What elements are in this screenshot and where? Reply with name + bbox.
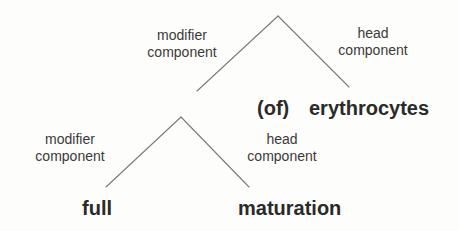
label-line: modifier <box>35 131 104 148</box>
word-full: full <box>82 197 112 219</box>
label-line: modifier <box>147 27 216 44</box>
compound-term-tree-diagram: modifier component head component (of) e… <box>0 0 459 231</box>
word-erythrocytes: erythrocytes <box>309 97 429 119</box>
label-line: head <box>338 25 407 42</box>
sub-modifier-component-label: modifier component <box>35 131 104 165</box>
label-line: component <box>338 42 407 59</box>
top-modifier-component-label: modifier component <box>147 27 216 61</box>
sub-modifier-branch <box>106 117 181 187</box>
sub-head-component-label: head component <box>247 131 316 165</box>
top-head-component-label: head component <box>338 25 407 59</box>
label-line: component <box>147 44 216 61</box>
word-maturation: maturation <box>238 197 341 219</box>
label-line: component <box>35 148 104 165</box>
label-line: component <box>247 148 316 165</box>
sub-head-branch <box>181 117 249 187</box>
preposition-of: (of) <box>257 97 289 119</box>
label-line: head <box>247 131 316 148</box>
